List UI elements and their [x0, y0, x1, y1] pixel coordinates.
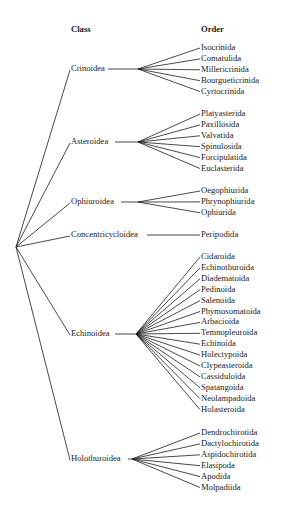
order-branch-line: [138, 191, 200, 202]
order-label-salenoida: Salenoida: [201, 295, 235, 305]
class-branch-line: [16, 236, 70, 247]
class-label-echinoidea: Echinoidea: [71, 328, 110, 338]
order-branch-line: [138, 69, 200, 92]
order-label-ophiurida: Ophiurida: [201, 207, 236, 217]
order-branch-line: [132, 459, 200, 488]
order-branch-line: [138, 59, 200, 69]
class-label-holothuroidea: Holothuroidea: [71, 453, 121, 463]
order-label-clypeasteroida: Clypeasteroida: [201, 360, 253, 370]
order-label-diadematoida: Diadematoida: [201, 273, 249, 283]
class-column-header: Class: [71, 24, 91, 34]
order-label-forcipulatida: Forcipulatida: [201, 152, 247, 162]
class-label-crinoidea: Crinoidea: [71, 63, 105, 73]
order-branch-line: [136, 290, 200, 334]
order-branch-line: [138, 125, 200, 142]
order-label-peripodida: Peripodida: [201, 229, 238, 239]
order-branch-line: [136, 334, 200, 410]
class-branch-line: [16, 247, 70, 460]
order-label-euclasterida: Euclasterida: [201, 163, 243, 173]
order-label-echinoida: Echinoida: [201, 338, 236, 348]
order-branch-line: [136, 279, 200, 334]
order-label-dendrochirotida: Dendrochirotida: [201, 427, 257, 437]
order-branch-line: [136, 301, 200, 334]
order-branch-line: [138, 69, 200, 81]
order-label-pedinoida: Pedinoida: [201, 284, 235, 294]
order-label-cassiduloida: Cassiduloida: [201, 371, 245, 381]
class-label-concentricycloidea: Concentricycloidea: [71, 229, 138, 239]
order-label-dactylochirotida: Dactylochirotida: [201, 438, 259, 448]
order-label-comatulida: Comatulida: [201, 53, 241, 63]
class-label-asteroidea: Asteroidea: [71, 136, 108, 146]
order-label-isocrinida: Isocrinida: [201, 42, 235, 52]
order-label-valvatida: Valvatida: [201, 130, 233, 140]
order-label-molpadiida: Molpadiida: [201, 482, 241, 492]
order-branch-line: [138, 202, 200, 213]
order-label-phymosomatoida: Phymosomatoida: [201, 306, 261, 316]
order-branch-line: [138, 69, 200, 70]
order-label-cyrtocrinida: Cyrtocrinida: [201, 86, 244, 96]
order-label-apodida: Apodida: [201, 471, 231, 481]
order-label-arbacioida: Arbacioida: [201, 316, 239, 326]
order-label-elasipoda: Elasipoda: [201, 460, 235, 470]
order-branch-line: [138, 136, 200, 142]
order-label-echinothuroida: Echinothuroida: [201, 262, 254, 272]
order-label-holectypoida: Holectypoida: [201, 349, 247, 359]
order-branch-line: [138, 114, 200, 142]
order-label-aspidochirotida: Aspidochirotida: [201, 449, 256, 459]
order-label-millericrinida: Millericrinida: [201, 64, 249, 74]
order-label-spatangoida: Spatangoida: [201, 382, 243, 392]
order-branch-line: [138, 48, 200, 69]
order-label-spinulosida: Spinulosida: [201, 141, 242, 151]
class-branch-line: [16, 203, 70, 247]
class-branch-line: [16, 247, 70, 335]
order-label-phrynophiurida: Phrynophiurida: [201, 196, 254, 206]
order-label-paxillosida: Paxillosida: [201, 119, 239, 129]
order-label-neolampadoida: Neolampadoida: [201, 393, 255, 403]
order-branch-line: [136, 333, 200, 334]
order-label-temnopleuroida: Temnopleuroida: [201, 327, 257, 337]
order-column-header: Order: [201, 24, 224, 34]
order-label-oegophiurida: Oegophiurida: [201, 185, 248, 195]
order-label-holasteroida: Holasteroida: [201, 404, 245, 414]
order-label-platyasterida: Platyasterida: [201, 108, 245, 118]
order-branch-line: [132, 459, 200, 477]
order-branch-line: [136, 334, 200, 377]
order-branch-line: [136, 334, 200, 355]
order-branch-line: [132, 459, 200, 466]
order-label-cidaroida: Cidaroida: [201, 251, 235, 261]
class-label-ophiuroidea: Ophiuroidea: [71, 196, 114, 206]
order-branch-line: [136, 334, 200, 399]
order-label-bourgueticrinida: Bourgueticrinida: [201, 75, 259, 85]
